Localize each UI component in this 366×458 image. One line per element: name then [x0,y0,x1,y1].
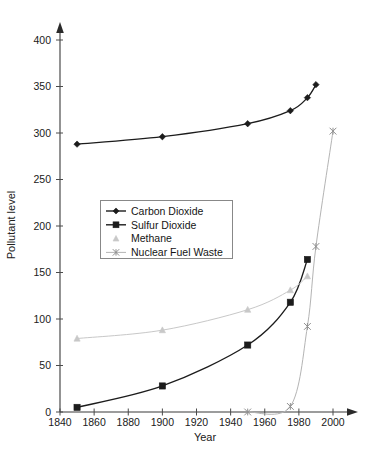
marker-square [113,222,119,228]
y-tick-label: 300 [33,127,51,139]
pollutant-level-line-chart: 050100150200250300350400 184018601880190… [0,0,366,458]
marker-square [287,299,293,305]
marker-diamond [313,81,319,87]
legend-label: Nuclear Fuel Waste [131,246,223,258]
x-tick-label: 1840 [48,416,72,428]
marker-diamond [159,134,165,140]
chart-legend: Carbon DioxideSulfur DioxideMethaneNucle… [101,201,233,259]
marker-square [245,342,251,348]
x-axis-title: Year [194,431,217,443]
legend-label: Sulfur Dioxide [131,219,197,231]
y-tick-label: 100 [33,313,51,325]
y-tick-label: 150 [33,266,51,278]
y-tick-label: 200 [33,220,51,232]
y-tick-label: 350 [33,80,51,92]
x-tick-label: 2000 [321,416,345,428]
marker-star [330,128,337,135]
x-tick-group: 184018601880190019201940196019802000 [48,409,345,429]
x-tick-label: 1920 [185,416,209,428]
series-carbon-dioxide [74,81,319,147]
y-tick-label: 250 [33,173,51,185]
series-methane [74,273,311,341]
y-axis [56,22,64,412]
y-tick-label: 50 [39,359,51,371]
y-tick-label: 400 [33,34,51,46]
marker-square [74,404,80,410]
x-tick-label: 1960 [253,416,277,428]
series-nuclear-fuel-waste [244,128,336,416]
series-line [77,259,307,407]
marker-star [287,403,294,410]
series-line [77,276,307,338]
x-tick-label: 1900 [151,416,175,428]
x-tick-label: 1880 [117,416,141,428]
y-axis-arrowhead [56,22,64,33]
marker-square [159,383,165,389]
marker-triangle [304,273,310,279]
x-tick-label: 1940 [219,416,243,428]
y-axis-title: Pollutant level [5,191,17,260]
marker-diamond [244,121,250,127]
marker-star [313,243,320,250]
series-sulfur-dioxide [74,256,311,410]
series-line [248,131,333,414]
legend-label: Carbon Dioxide [131,205,204,217]
marker-diamond [287,107,293,113]
legend-label: Methane [131,232,172,244]
marker-diamond [74,141,80,147]
marker-triangle [287,287,293,293]
x-axis [60,408,358,416]
chart-canvas: 050100150200250300350400 184018601880190… [0,0,366,458]
x-axis-arrowhead [347,408,358,416]
series-line [77,85,316,145]
marker-square [304,256,310,262]
x-tick-label: 1980 [287,416,311,428]
y-tick-group: 050100150200250300350400 [33,34,63,418]
x-tick-label: 1860 [82,416,106,428]
marker-star [304,323,311,330]
